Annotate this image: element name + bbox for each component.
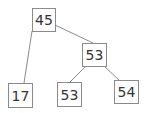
tree-node-right-left-grandchild: 53 bbox=[57, 82, 82, 107]
edge-53-53 bbox=[70, 67, 85, 82]
tree-node-root: 45 bbox=[32, 8, 56, 32]
edge-53-54 bbox=[105, 67, 119, 80]
tree-node-right-right-grandchild: 54 bbox=[114, 80, 139, 104]
edge-45-17 bbox=[24, 31, 32, 83]
tree-node-left-child: 17 bbox=[8, 83, 33, 108]
tree-node-right-child: 53 bbox=[82, 43, 107, 67]
edge-45-53 bbox=[55, 25, 93, 43]
